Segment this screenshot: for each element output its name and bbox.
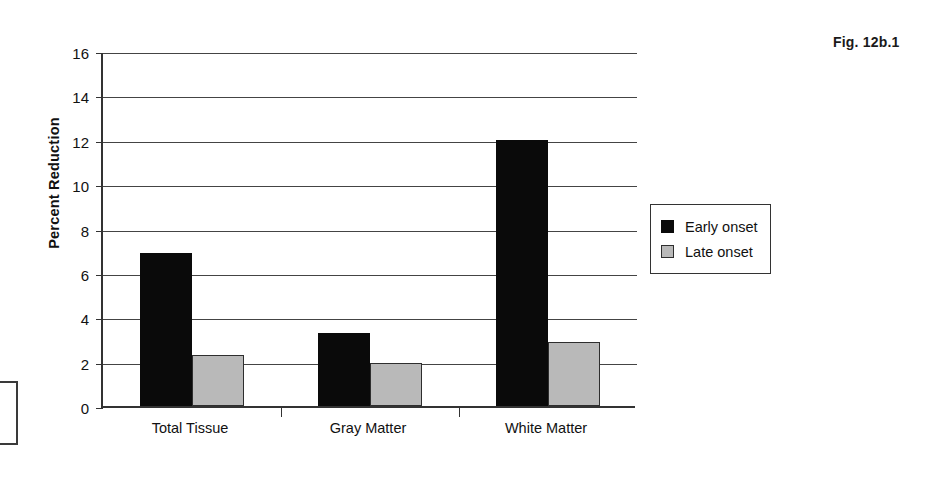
x-axis-tick: [459, 408, 460, 417]
chart-legend: Early onsetLate onset: [650, 204, 771, 274]
x-axis-category-label: Total Tissue: [152, 420, 229, 436]
y-axis-tick-label: 12: [49, 133, 89, 150]
black-square-icon: [661, 220, 674, 233]
y-axis-tick-label: 14: [49, 89, 89, 106]
gridline: [103, 186, 637, 187]
y-axis-tick: [96, 231, 103, 232]
legend-item-label: Early onset: [685, 219, 758, 235]
y-axis-tick-label: 8: [49, 222, 89, 239]
y-axis-tick-label: 16: [49, 45, 89, 62]
y-axis-tick: [96, 408, 103, 409]
bar-gray-matter-early-onset: [318, 333, 370, 406]
gray-square-icon: [661, 245, 674, 258]
y-axis-tick-label: 6: [49, 266, 89, 283]
y-axis-tick: [96, 364, 103, 365]
y-axis-tick: [96, 186, 103, 187]
y-axis-tick: [96, 142, 103, 143]
gridline: [103, 231, 637, 232]
x-axis-tick: [281, 408, 282, 417]
y-axis-tick-label: 0: [49, 400, 89, 417]
x-axis-category-label: White Matter: [505, 420, 587, 436]
legend-item: Late onset: [661, 239, 758, 264]
bar-chart: Percent Reduction 0246810121416 Total Ti…: [0, 0, 947, 480]
y-axis-tick: [96, 275, 103, 276]
plot-area: [101, 53, 635, 408]
gridline: [103, 142, 637, 143]
y-axis-tick-label: 2: [49, 355, 89, 372]
y-axis-tick-label: 10: [49, 178, 89, 195]
bar-white-matter-early-onset: [496, 140, 548, 406]
gridline: [103, 97, 637, 98]
y-axis-tick: [96, 53, 103, 54]
y-axis-tick: [96, 319, 103, 320]
gridline: [103, 53, 637, 54]
bar-gray-matter-late-onset: [370, 363, 422, 406]
y-axis-tick-label: 4: [49, 311, 89, 328]
legend-item-label: Late onset: [685, 244, 753, 260]
x-axis-category-label: Gray Matter: [330, 420, 407, 436]
bar-total-tissue-early-onset: [140, 253, 192, 406]
legend-item: Early onset: [661, 214, 758, 239]
bar-white-matter-late-onset: [548, 342, 600, 406]
y-axis-tick-labels: 0246810121416: [49, 53, 89, 408]
bar-total-tissue-late-onset: [192, 355, 244, 406]
y-axis-tick: [96, 97, 103, 98]
x-axis-category-labels: Total TissueGray MatterWhite Matter: [101, 420, 635, 444]
